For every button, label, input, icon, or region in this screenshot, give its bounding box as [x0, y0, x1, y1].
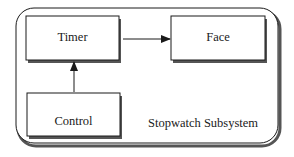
- diagram-canvas: [0, 0, 294, 157]
- timer-label: Timer: [26, 30, 119, 45]
- subsystem-label: Stopwatch Subsystem: [148, 116, 258, 131]
- face-label: Face: [171, 30, 265, 45]
- control-label: Control: [27, 114, 120, 129]
